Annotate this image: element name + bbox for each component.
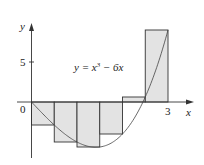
y-axis-arrow-icon [29, 23, 34, 31]
equation-label: y = x3 − 6x [73, 61, 124, 73]
x-axis-label: x [185, 106, 191, 118]
x-axis-arrow-icon [186, 100, 194, 105]
riemann-rectangle [77, 102, 100, 147]
riemann-rectangle [54, 102, 77, 142]
y-axis-label: y [19, 20, 25, 32]
x-tick-label-3: 3 [165, 105, 171, 117]
y-tick-label-5: 5 [20, 56, 26, 68]
origin-label: 0 [20, 103, 26, 115]
riemann-sum-chart: y 5 0 3 x y = x3 − 6x [0, 0, 204, 165]
riemann-rectangle [123, 97, 146, 102]
riemann-rectangles [32, 30, 169, 147]
riemann-rectangle [100, 102, 123, 134]
